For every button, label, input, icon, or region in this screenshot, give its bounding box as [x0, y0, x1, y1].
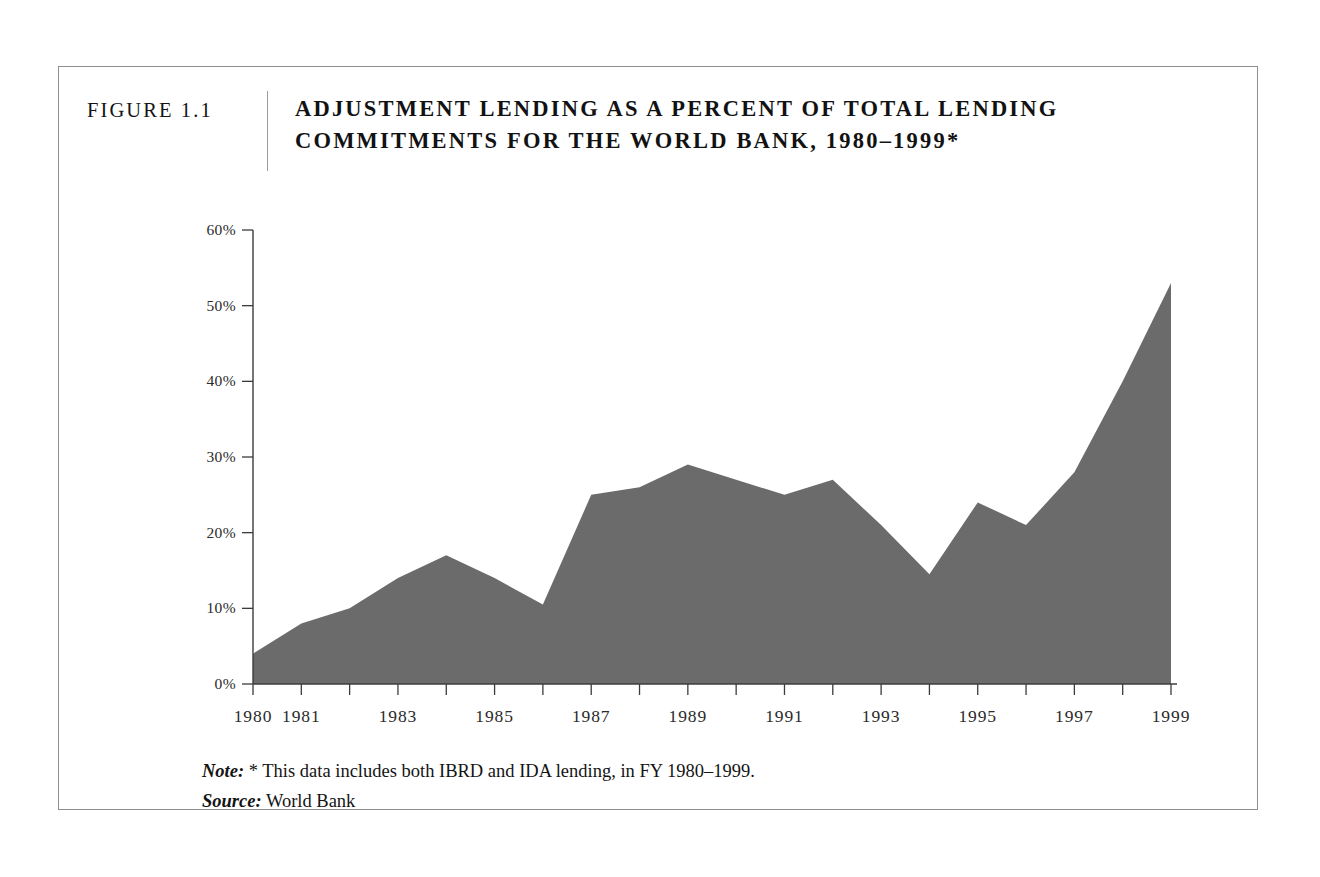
x-axis-ticks: [253, 684, 1171, 695]
x-tick-label: 1983: [379, 706, 418, 726]
x-tick-label: 1985: [475, 706, 514, 726]
y-tick-label: 0%: [215, 675, 236, 692]
x-tick-label: 1980: [234, 706, 273, 726]
y-tick-label: 10%: [206, 599, 236, 616]
y-axis-labels: 0%10%20%30%40%50%60%: [206, 221, 236, 692]
area-chart: 0%10%20%30%40%50%60% 1980198119831985198…: [59, 67, 1259, 747]
source-label: Source:: [202, 791, 262, 811]
x-tick-label: 1993: [862, 706, 901, 726]
x-tick-label: 1987: [572, 706, 611, 726]
y-tick-label: 60%: [206, 221, 236, 238]
x-tick-label: 1999: [1152, 706, 1191, 726]
source-row: Source: World Bank: [202, 787, 1162, 817]
y-tick-label: 20%: [206, 524, 236, 541]
y-axis-ticks: [242, 230, 253, 684]
figure-page: FIGURE 1.1 ADJUSTMENT LENDING AS A PERCE…: [0, 0, 1320, 877]
source-text: World Bank: [262, 791, 356, 811]
y-tick-label: 50%: [206, 297, 236, 314]
x-tick-label: 1989: [669, 706, 708, 726]
chart-area: 0%10%20%30%40%50%60% 1980198119831985198…: [59, 67, 1259, 811]
note-text: * This data includes both IBRD and IDA l…: [244, 761, 755, 781]
note-label: Note:: [202, 761, 244, 781]
x-tick-label: 1997: [1055, 706, 1094, 726]
y-tick-label: 30%: [206, 448, 236, 465]
figure-frame: FIGURE 1.1 ADJUSTMENT LENDING AS A PERCE…: [58, 66, 1258, 810]
x-tick-label: 1981: [282, 706, 321, 726]
x-axis-labels: 1980198119831985198719891991199319951997…: [234, 706, 1191, 726]
area-series-fill: [253, 283, 1171, 684]
note-row: Note: * This data includes both IBRD and…: [202, 757, 1162, 787]
x-tick-label: 1991: [765, 706, 804, 726]
x-tick-label: 1995: [958, 706, 997, 726]
figure-notes: Note: * This data includes both IBRD and…: [202, 757, 1162, 817]
y-tick-label: 40%: [206, 372, 236, 389]
